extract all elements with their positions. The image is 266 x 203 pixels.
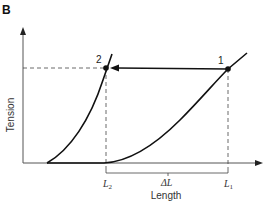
point-1-label: 1 <box>218 55 224 66</box>
point-2-dot <box>103 65 109 71</box>
y-axis <box>20 27 26 163</box>
panel-label: B <box>2 3 11 17</box>
curve-2 <box>47 54 112 163</box>
length-tension-diagram: B Tension 2 1 L2 ΔL L1 Length <box>0 0 266 203</box>
y-axis-label: Tension <box>5 98 16 132</box>
arrow-head-icon <box>110 65 119 72</box>
shortening-arrow <box>110 65 228 72</box>
x-axis-label: Length <box>151 190 182 201</box>
delta-l-bracket <box>106 170 228 176</box>
x-axis-arrow-icon <box>255 160 263 166</box>
delta-l-marker: ΔL <box>160 177 173 188</box>
point-2-label: 2 <box>96 54 102 65</box>
dashed-guides <box>23 68 228 170</box>
y-axis-arrow-icon <box>20 27 26 35</box>
point-1-dot <box>225 66 231 72</box>
l2-marker: L2 <box>102 178 113 191</box>
l1-marker: L1 <box>223 178 234 191</box>
